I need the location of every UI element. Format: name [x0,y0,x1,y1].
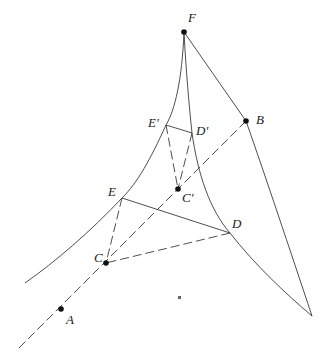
geometry-diagram: F B E′ D′ C′ E D C A [0,0,331,363]
point-A [58,306,64,312]
segment-E'-C' [166,125,178,189]
stray-mark [178,296,181,299]
segment-E'-D' [166,125,192,133]
segment-D-C [106,233,230,263]
segment-D'-C' [178,133,192,189]
point-B [243,118,249,124]
point-C [103,260,109,266]
left-curve [25,32,184,283]
inner-curve [184,32,312,316]
segment-E-D [122,198,230,233]
label-E: E [107,184,116,199]
point-F [181,29,187,35]
label-C-prime: C′ [182,190,194,205]
label-B: B [256,112,264,127]
label-C: C [94,250,103,265]
point-C-prime [175,186,181,192]
dashed-line-B-A [17,121,246,350]
label-D: D [231,216,242,231]
label-E-prime: E′ [147,115,159,130]
line-F-B [184,32,246,121]
label-F: F [187,10,197,25]
label-A: A [65,312,74,327]
label-D-prime: D′ [195,123,208,138]
